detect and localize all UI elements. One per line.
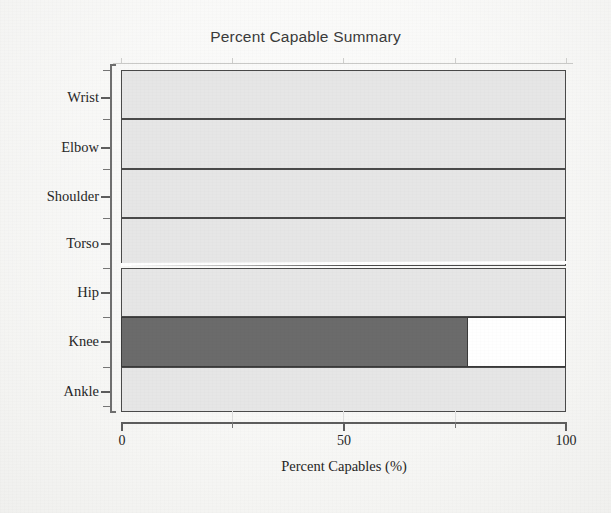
x-axis-label-50: 50 — [337, 433, 351, 449]
y-axis-labels: Wrist Elbow Shoulder Torso Hip Knee Ankl… — [0, 0, 99, 513]
y-axis-minor-tick — [103, 70, 110, 71]
x-axis-minor-tick-25 — [232, 422, 233, 428]
y-axis-tick-shoulder — [101, 196, 110, 198]
bar-knee-remainder — [468, 317, 566, 367]
y-axis-label-hip: Hip — [3, 284, 99, 301]
bar-row-elbow — [121, 119, 566, 169]
x-axis-tick-0 — [121, 422, 123, 431]
y-axis-minor-tick — [103, 367, 110, 368]
bar-row-knee — [121, 317, 566, 367]
y-axis-label-ankle: Ankle — [3, 383, 99, 400]
plot-top-tick — [566, 58, 567, 63]
x-axis-title: Percent Capables (%) — [121, 458, 567, 475]
y-axis-label-knee: Knee — [3, 333, 99, 350]
bar-shoulder — [121, 169, 566, 218]
y-axis-label-torso: Torso — [3, 235, 99, 252]
y-axis-spine — [110, 64, 112, 413]
y-axis-minor-tick — [103, 317, 110, 318]
bar-row-shoulder — [121, 169, 566, 218]
y-axis-tick-hip — [101, 292, 110, 294]
y-axis-cap-top — [110, 64, 116, 66]
bar-knee — [121, 317, 468, 367]
chart-figure: Percent Capable Summary Wrist Elbow Shou… — [0, 0, 611, 513]
bar-row-torso — [121, 218, 566, 266]
plot-top-rule — [113, 63, 573, 64]
y-axis-tick-elbow — [101, 147, 110, 149]
bar-hip — [121, 268, 566, 317]
bar-wrist — [121, 70, 566, 119]
plot-top-tick — [232, 58, 233, 63]
plot-top-tick — [121, 58, 122, 63]
y-axis-label-shoulder: Shoulder — [3, 188, 99, 205]
y-axis-tick-knee — [101, 341, 110, 343]
bar-row-hip — [121, 268, 566, 317]
plot-top-tick — [455, 58, 456, 63]
y-axis-minor-tick — [103, 268, 110, 269]
y-axis-tick-ankle — [101, 391, 110, 393]
y-axis-cap-bottom — [110, 411, 116, 413]
y-axis-minor-tick — [103, 169, 110, 170]
y-axis-label-wrist: Wrist — [3, 89, 99, 106]
bar-torso — [121, 218, 566, 266]
y-axis-tick-torso — [101, 243, 110, 245]
x-axis-tick-50 — [343, 422, 345, 431]
bar-row-wrist — [121, 70, 566, 119]
y-axis-minor-tick — [103, 406, 110, 407]
y-axis-tick-wrist — [101, 97, 110, 99]
y-axis-minor-tick — [103, 119, 110, 120]
bar-elbow — [121, 119, 566, 169]
x-axis-minor-tick-75 — [455, 422, 456, 428]
x-grid-hint — [343, 411, 344, 422]
x-grid-hint — [455, 411, 456, 422]
bar-ankle — [121, 367, 566, 412]
bar-row-ankle — [121, 367, 566, 412]
x-axis-label-100: 100 — [556, 433, 577, 449]
y-axis-minor-tick — [103, 218, 110, 219]
y-axis-label-elbow: Elbow — [3, 139, 99, 156]
x-axis-tick-100 — [565, 422, 567, 431]
x-grid-hint — [232, 411, 233, 422]
plot-top-tick — [343, 58, 344, 63]
x-axis-label-0: 0 — [119, 433, 126, 449]
